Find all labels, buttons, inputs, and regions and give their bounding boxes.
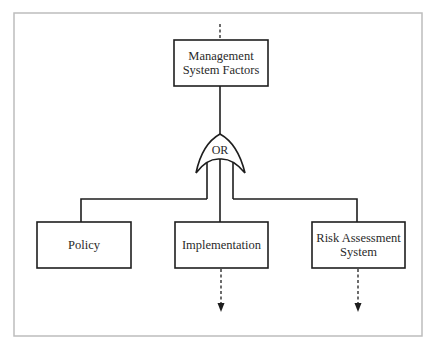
bus-right xyxy=(233,199,357,222)
implementation-label-line1: Implementation xyxy=(182,238,261,252)
implementation-label: Implementation xyxy=(175,222,268,268)
top-event-label-line2: System Factors xyxy=(183,63,260,77)
implementation-arrow-icon xyxy=(218,303,225,312)
risk-arrow-icon xyxy=(355,303,362,312)
risk-assessment-label: Risk Assessment System xyxy=(310,222,407,268)
bus-left xyxy=(81,199,207,222)
top-event-label: Management System Factors xyxy=(174,40,268,86)
policy-label-line1: Policy xyxy=(68,238,100,252)
or-gate-label: OR xyxy=(200,143,240,158)
policy-label: Policy xyxy=(37,222,131,268)
risk-assessment-label-line1: Risk Assessment xyxy=(316,231,400,245)
top-event-label-line1: Management xyxy=(188,49,253,63)
risk-assessment-label-line2: System xyxy=(340,245,377,259)
